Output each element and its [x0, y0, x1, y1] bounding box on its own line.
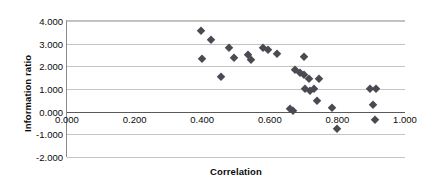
- zero-axis-line: [67, 112, 405, 113]
- x-axis-tick-label: 0.200: [123, 114, 147, 125]
- y-axis-tick-label: 1.000: [39, 84, 63, 95]
- x-axis-tick-label: 0.600: [258, 114, 282, 125]
- scatter-chart: Information ratio -2.000-1.0000.0001.000…: [0, 0, 426, 187]
- data-point-marker: [314, 75, 323, 84]
- x-axis-tick-label: 0.000: [55, 114, 79, 125]
- gridline: [67, 157, 405, 158]
- gridline: [67, 21, 405, 22]
- data-point-marker: [299, 52, 308, 61]
- y-axis-tick-label: 2.000: [39, 61, 63, 72]
- data-point-marker: [333, 124, 342, 133]
- gridline: [67, 134, 405, 135]
- x-axis-tick-label: 1.000: [393, 114, 417, 125]
- x-axis-tick-label: 0.400: [190, 114, 214, 125]
- x-axis-title: Correlation: [66, 166, 406, 177]
- data-point-marker: [368, 101, 377, 110]
- data-point-marker: [198, 55, 207, 64]
- x-axis-tick-label: 0.800: [326, 114, 350, 125]
- data-point-marker: [230, 54, 239, 63]
- y-axis-tick-label: -2.000: [36, 152, 63, 163]
- y-axis-tick-label: 4.000: [39, 16, 63, 27]
- data-point-marker: [225, 44, 234, 53]
- y-axis-title: Information ratio: [18, 0, 36, 187]
- data-point-marker: [288, 107, 297, 116]
- data-point-marker: [372, 84, 381, 93]
- data-point-marker: [370, 116, 379, 125]
- y-axis-tick-label: 3.000: [39, 38, 63, 49]
- gridline: [67, 44, 405, 45]
- data-point-marker: [313, 97, 322, 106]
- gridline: [67, 66, 405, 67]
- y-axis-tick-label: -1.000: [36, 129, 63, 140]
- data-point-marker: [216, 73, 225, 82]
- plot-area: -2.000-1.0000.0001.0002.0003.0004.0000.0…: [66, 20, 405, 157]
- gridline: [67, 89, 405, 90]
- data-point-marker: [272, 49, 281, 58]
- data-point-marker: [196, 27, 205, 36]
